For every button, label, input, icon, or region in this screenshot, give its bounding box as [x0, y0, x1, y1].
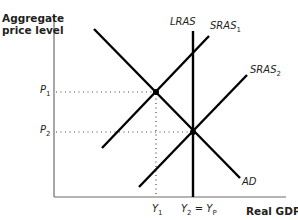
ad-label: AD: [242, 176, 257, 187]
y-axis-label-line1: Aggregate: [2, 12, 53, 24]
sras1-label: SRAS1: [210, 20, 241, 34]
equilibrium-point-2: [190, 129, 196, 135]
p2-label: P2: [40, 124, 51, 138]
lras-label: LRAS: [170, 16, 196, 27]
p1-label: P1: [40, 84, 51, 98]
equilibrium-point-1: [153, 89, 159, 95]
y-axis-label: Aggregate price level: [2, 12, 53, 36]
x-axis-label: Real GDP: [246, 205, 298, 217]
sras2-label: SRAS2: [250, 64, 281, 78]
y-axis-label-line2: price level: [2, 24, 53, 36]
y2-yp-label: Y2 = YP: [181, 203, 217, 217]
y1-label: Y1: [152, 203, 163, 217]
